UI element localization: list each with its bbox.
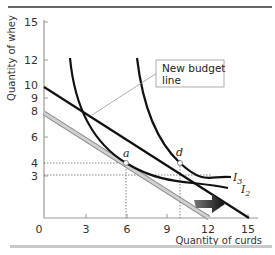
point-d-label: d xyxy=(176,146,183,159)
x-tick-6: 6 xyxy=(124,223,131,236)
x-tick-9: 9 xyxy=(164,223,171,236)
y-tick-6: 6 xyxy=(31,131,38,144)
curve-label-i2: I2 xyxy=(240,183,250,198)
x-tick-0: 0 xyxy=(36,223,43,236)
y-tick-4: 4 xyxy=(31,157,38,170)
x-tick-3: 3 xyxy=(83,223,90,236)
point-d-marker xyxy=(178,161,183,166)
y-axis-title: Quantity of whey xyxy=(6,15,17,101)
bottom-rule xyxy=(10,245,272,248)
indifference-curve-chart: 15 12 10 9 8 6 4 3 0 3 6 9 12 15 Quantit… xyxy=(0,0,275,255)
y-tick-15: 15 xyxy=(24,16,38,29)
point-a-label: a xyxy=(123,147,130,160)
y-tick-12: 12 xyxy=(24,54,38,67)
y-tick-8: 8 xyxy=(31,105,38,118)
y-tick-10: 10 xyxy=(24,79,38,92)
y-tick-9: 9 xyxy=(31,92,38,105)
point-a-marker xyxy=(124,161,129,166)
x-axis-title: Quantity of curds xyxy=(175,235,262,246)
guide-lines xyxy=(44,163,212,218)
y-tick-3: 3 xyxy=(31,170,38,183)
callout-line-1: New budget xyxy=(162,62,225,74)
callout-line-2: line xyxy=(162,74,181,86)
